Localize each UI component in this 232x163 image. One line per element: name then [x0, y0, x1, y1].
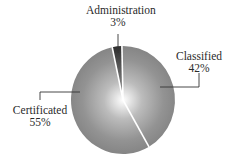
- label-classified-name: Classified: [174, 50, 224, 62]
- label-classified-pct: 42%: [174, 62, 224, 74]
- label-certificated: Certificated 55%: [12, 104, 68, 128]
- label-administration: Administration 3%: [86, 4, 150, 28]
- label-classified: Classified 42%: [174, 50, 224, 74]
- label-certificated-pct: 55%: [12, 116, 68, 128]
- label-certificated-name: Certificated: [12, 104, 68, 116]
- label-administration-pct: 3%: [86, 16, 150, 28]
- pie-slices: [71, 46, 175, 154]
- label-administration-name: Administration: [86, 4, 150, 16]
- slice-separator: [122, 46, 123, 100]
